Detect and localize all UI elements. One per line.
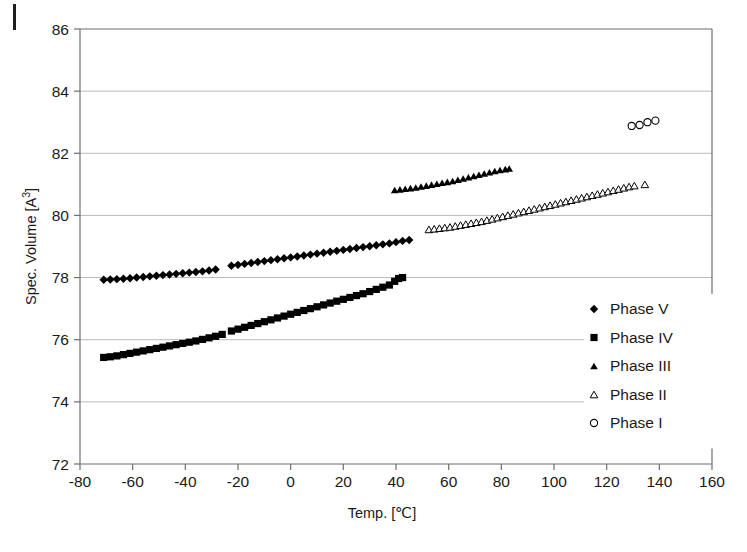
- data-point: [166, 342, 173, 349]
- data-point: [153, 345, 160, 352]
- x-tick-label-60: 60: [440, 473, 458, 490]
- data-point: [132, 273, 140, 281]
- x-tick-label-140: 140: [646, 473, 672, 490]
- data-point: [359, 243, 367, 251]
- data-point: [280, 313, 287, 320]
- series-phase-i: [628, 117, 659, 129]
- data-point: [405, 236, 413, 244]
- data-point: [120, 351, 127, 358]
- data-point: [373, 286, 380, 293]
- data-point: [399, 274, 406, 281]
- data-point: [385, 239, 393, 247]
- data-point: [199, 336, 206, 343]
- legend-marker-filled-square-icon: [590, 334, 597, 341]
- series-phase-iii: [391, 165, 513, 193]
- legend-label: Phase I: [610, 414, 663, 431]
- y-tick-label-74: 74: [52, 393, 70, 410]
- data-point: [146, 346, 153, 353]
- data-point: [327, 299, 334, 306]
- x-tick-label-40: 40: [387, 473, 405, 490]
- data-point: [346, 294, 353, 301]
- data-point: [365, 242, 373, 250]
- data-point: [227, 262, 235, 270]
- data-point: [339, 246, 347, 254]
- x-axis-title: Temp. [℃]: [348, 505, 417, 521]
- data-point: [234, 326, 241, 333]
- data-point: [126, 350, 133, 357]
- data-point: [192, 268, 200, 276]
- data-point: [300, 251, 308, 259]
- y-tick-label-80: 80: [52, 207, 70, 224]
- data-point: [274, 314, 281, 321]
- data-point: [173, 341, 180, 348]
- chart-legend: Phase VPhase IVPhase IIIPhase IIPhase I: [584, 294, 722, 449]
- data-point: [198, 267, 206, 275]
- x-tick-label--20: -20: [227, 473, 250, 490]
- data-point: [186, 339, 193, 346]
- data-point: [293, 252, 301, 260]
- data-point: [146, 272, 154, 280]
- y-axis-tick-group: [74, 29, 80, 464]
- data-point: [392, 238, 400, 246]
- data-point: [340, 296, 347, 303]
- x-tick-label-120: 120: [594, 473, 620, 490]
- data-point: [352, 244, 360, 252]
- data-point: [359, 290, 366, 297]
- data-point: [333, 247, 341, 255]
- data-point: [319, 249, 327, 257]
- x-tick-label-100: 100: [541, 473, 567, 490]
- data-point: [152, 272, 160, 280]
- data-point: [192, 337, 199, 344]
- data-point: [644, 119, 651, 126]
- data-point: [261, 318, 268, 325]
- data-point: [234, 261, 242, 269]
- data-point: [126, 274, 134, 282]
- data-point: [228, 327, 235, 334]
- data-point: [307, 305, 314, 312]
- x-tick-label-160: 160: [699, 473, 725, 490]
- x-axis-tick-group: [80, 464, 712, 470]
- data-point: [287, 311, 294, 318]
- series-phase-v: [100, 236, 414, 284]
- data-point: [179, 340, 186, 347]
- data-point: [140, 347, 147, 354]
- y-axis-title-text: Spec. Volume [A3]: [20, 188, 39, 305]
- data-point: [205, 266, 213, 274]
- data-point: [636, 121, 643, 128]
- x-axis-tick-labels: -80-60-40-20020406080100120140160: [69, 473, 726, 490]
- y-tick-label-84: 84: [52, 83, 70, 100]
- data-point: [379, 240, 387, 248]
- corner-tick-mark: [13, 4, 16, 30]
- x-tick-label-20: 20: [335, 473, 353, 490]
- data-point: [267, 256, 275, 264]
- legend-label: Phase III: [610, 357, 671, 374]
- data-point: [306, 250, 314, 258]
- data-point: [240, 260, 248, 268]
- data-point: [211, 265, 219, 273]
- data-point: [631, 182, 639, 189]
- y-tick-label-86: 86: [52, 21, 69, 38]
- data-point: [652, 117, 659, 124]
- chart-figure: -80-60-40-20020406080100120140160 727476…: [0, 0, 747, 552]
- data-point: [260, 257, 268, 265]
- data-point: [628, 122, 635, 129]
- data-point: [254, 320, 261, 327]
- data-point: [313, 303, 320, 310]
- data-point: [133, 349, 140, 356]
- data-point: [294, 309, 301, 316]
- data-point: [248, 322, 255, 329]
- data-point: [372, 241, 380, 249]
- y-axis-title: Spec. Volume [A3]: [20, 188, 39, 305]
- data-point: [219, 331, 226, 338]
- legend-label: Phase V: [610, 300, 669, 317]
- data-point: [107, 353, 114, 360]
- spec-volume-vs-temp-chart: -80-60-40-20020406080100120140160 727476…: [0, 0, 747, 552]
- data-point: [346, 245, 354, 253]
- data-point: [379, 284, 386, 291]
- data-point: [119, 275, 127, 283]
- legend-marker-open-circle-icon: [590, 419, 597, 426]
- y-tick-label-76: 76: [52, 331, 69, 348]
- y-axis-tick-labels: 7274767880828486: [52, 21, 70, 473]
- y-tick-label-78: 78: [52, 269, 69, 286]
- data-point: [320, 301, 327, 308]
